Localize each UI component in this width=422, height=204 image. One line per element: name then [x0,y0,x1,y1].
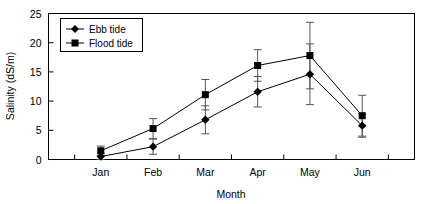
marker-square [359,112,366,119]
x-tick-label: May [300,166,321,178]
chart-svg: 0510152025 JanFebMarAprMayJun Salinity (… [0,0,422,204]
y-tick-label: 0 [36,154,42,166]
y-axis-ticks [49,14,54,160]
series-lines-group [101,56,362,157]
salinity-line-chart: 0510152025 JanFebMarAprMayJun Salinity (… [0,0,422,204]
marker-diamond [253,88,261,96]
marker-diamond [201,116,209,124]
marker-square [97,147,104,154]
series-line [101,56,362,151]
series-line [101,74,362,156]
y-axis-title: Salinity (dS/m) [4,52,16,120]
legend-marker-square [72,40,79,47]
x-axis-ticks [75,155,389,160]
marker-square [150,125,157,132]
x-tick-label: Mar [196,166,215,178]
y-tick-label: 10 [30,95,42,107]
legend-label-2: Flood tide [89,38,133,49]
marker-square [306,52,313,59]
x-tick-label: Apr [249,166,266,178]
marker-square [202,91,209,98]
x-axis-tick-labels: JanFebMarAprMayJun [92,166,371,178]
x-axis-title: Month [216,188,245,200]
y-tick-label: 15 [30,66,42,78]
legend: Ebb tideFlood tide [61,19,143,52]
y-tick-label: 25 [30,8,42,20]
y-tick-label: 20 [30,37,42,49]
x-tick-label: Jun [354,166,371,178]
y-tick-label: 5 [36,124,42,136]
marker-diamond [149,142,157,150]
legend-label-1: Ebb tide [89,24,126,35]
series-markers-group [97,52,367,161]
x-tick-label: Feb [144,166,162,178]
marker-square [254,62,261,69]
x-tick-label: Jan [92,166,109,178]
y-axis-tick-labels: 0510152025 [30,8,42,166]
